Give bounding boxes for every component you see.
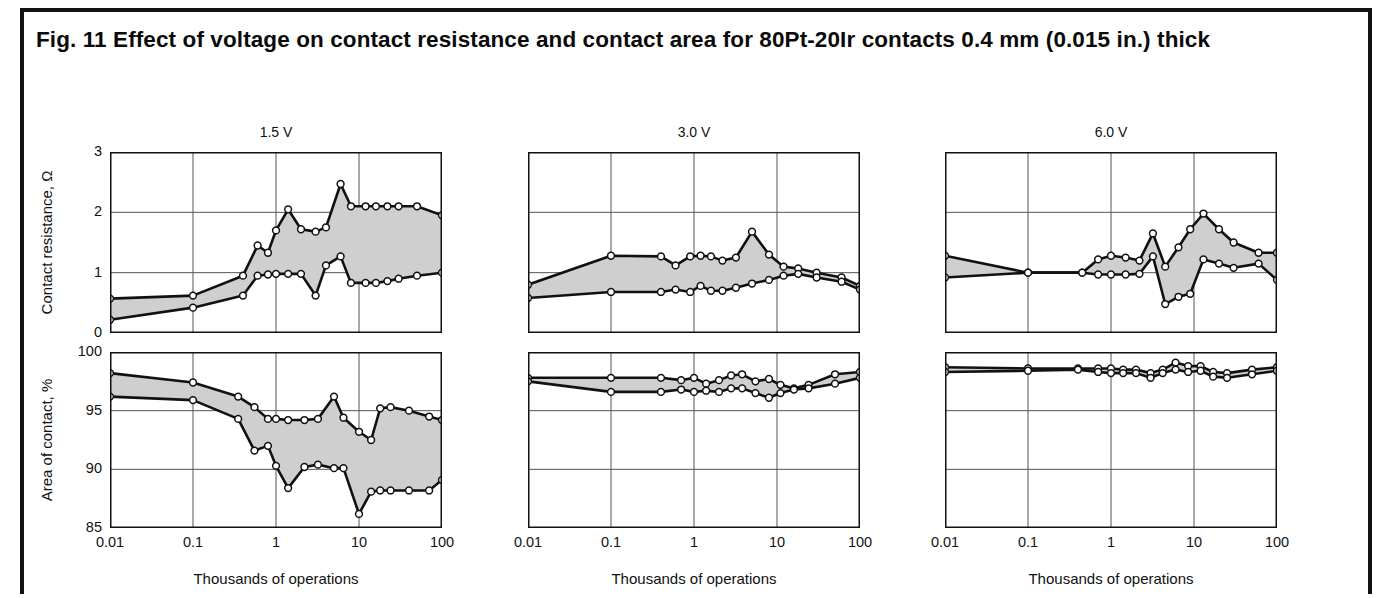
figure-caption: Fig. 11 Effect of voltage on contact res… <box>36 26 1336 53</box>
data-point <box>323 224 330 231</box>
data-point <box>1200 210 1207 217</box>
data-point <box>323 262 330 269</box>
x-tick-label: 100 <box>820 534 900 550</box>
data-point <box>362 280 369 287</box>
data-point <box>795 270 802 277</box>
x-tick-label: 1 <box>654 534 734 550</box>
data-point <box>719 257 726 264</box>
data-point <box>777 381 784 388</box>
y-tick-label: 100 <box>58 343 102 359</box>
data-point <box>678 377 685 384</box>
data-point <box>273 270 280 277</box>
data-point <box>708 253 715 260</box>
data-point <box>356 511 363 518</box>
data-point <box>1133 370 1140 377</box>
data-point <box>406 407 413 414</box>
data-point <box>733 284 740 291</box>
plot-area-area-of-contact-3.0v <box>528 352 860 528</box>
x-tick-label: 1 <box>1071 534 1151 550</box>
data-point <box>426 487 433 494</box>
data-point <box>1230 264 1237 271</box>
data-point <box>387 487 394 494</box>
data-point <box>368 437 375 444</box>
y-tick-label: 2 <box>58 203 102 219</box>
plot-area-area-of-contact-1.5v <box>110 352 442 528</box>
data-point <box>395 203 402 210</box>
data-point <box>608 289 615 296</box>
data-point <box>1255 249 1262 256</box>
x-axis-label: Thousands of operations <box>110 570 442 587</box>
x-tick-label: 0.1 <box>571 534 651 550</box>
data-point <box>1150 253 1157 260</box>
data-point <box>387 404 394 411</box>
data-point <box>240 272 247 279</box>
data-point <box>301 464 308 471</box>
x-tick-label: 0.1 <box>153 534 233 550</box>
data-point <box>337 253 344 260</box>
panel-area-of-contact-3.0v <box>528 352 860 528</box>
data-point <box>251 404 258 411</box>
data-point <box>265 271 272 278</box>
data-point <box>1108 252 1115 259</box>
data-point <box>190 379 197 386</box>
data-point <box>739 371 746 378</box>
data-point <box>766 277 773 284</box>
data-point <box>687 253 694 260</box>
y-tick-label: 95 <box>58 402 102 418</box>
data-point <box>719 287 726 294</box>
data-point <box>728 385 735 392</box>
data-point <box>265 249 272 256</box>
data-point <box>703 387 710 394</box>
data-point <box>273 415 280 422</box>
data-point <box>838 278 845 285</box>
data-point <box>708 287 715 294</box>
data-point <box>766 376 773 383</box>
data-point <box>240 292 247 299</box>
data-point <box>691 374 698 381</box>
data-point <box>373 203 380 210</box>
data-point <box>356 428 363 435</box>
data-point <box>362 203 369 210</box>
data-point <box>728 372 735 379</box>
data-point <box>273 462 280 469</box>
data-point <box>190 397 197 404</box>
data-point <box>1185 369 1192 376</box>
data-point <box>687 289 694 296</box>
data-point <box>1136 270 1143 277</box>
data-point <box>691 388 698 395</box>
panel-area-of-contact-6.0v <box>945 352 1277 528</box>
data-point <box>340 414 347 421</box>
data-point <box>1120 370 1127 377</box>
data-point <box>703 380 710 387</box>
y-tick-label: 85 <box>58 519 102 535</box>
data-point <box>1162 263 1169 270</box>
data-point <box>285 270 292 277</box>
data-point <box>265 415 272 422</box>
plot-area-contact-resistance-1.5v <box>110 152 442 333</box>
data-point <box>658 388 665 395</box>
data-point <box>285 417 292 424</box>
data-point <box>1187 226 1194 233</box>
data-point <box>377 487 384 494</box>
data-point <box>254 272 261 279</box>
data-point <box>377 405 384 412</box>
x-tick-label: 100 <box>402 534 482 550</box>
panel-contact-resistance-3.0v <box>528 152 860 333</box>
data-point <box>348 203 355 210</box>
data-point <box>1095 256 1102 263</box>
data-point <box>1172 366 1179 373</box>
data-point <box>395 275 402 282</box>
data-point <box>1136 257 1143 264</box>
data-point <box>749 280 756 287</box>
data-point <box>414 203 421 210</box>
data-point <box>716 377 723 384</box>
data-point <box>235 393 242 400</box>
y-tick-label: 0 <box>58 324 102 340</box>
data-point <box>1224 374 1231 381</box>
data-point <box>265 442 272 449</box>
data-point <box>608 252 615 259</box>
data-point <box>190 304 197 311</box>
data-point <box>285 206 292 213</box>
data-point <box>406 487 413 494</box>
data-point <box>752 390 759 397</box>
